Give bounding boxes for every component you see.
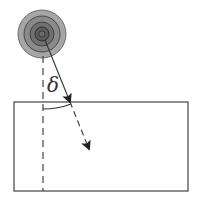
angle-arc (43, 104, 71, 109)
refraction-diagram: δ (0, 0, 198, 203)
refracted-ray-arrow (70, 102, 89, 149)
wave-source-icon (18, 10, 66, 58)
angle-label: δ (47, 73, 59, 97)
medium-rectangle (14, 102, 188, 191)
